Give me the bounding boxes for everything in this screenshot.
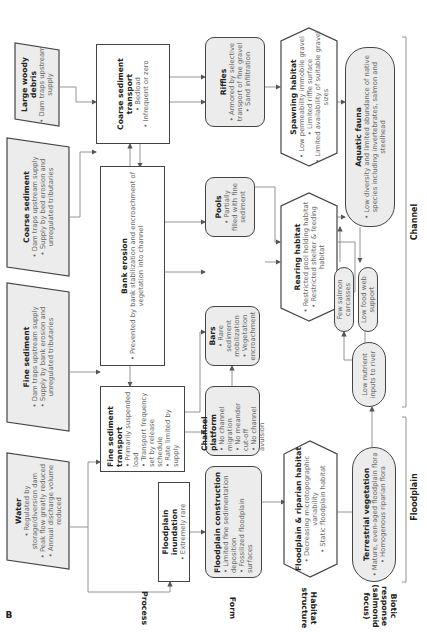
driver-fine-sediment: Fine sediment • Dam traps upstream suppl…: [6, 282, 70, 432]
habitat-floodplain-riparian: Floodplain & riparian habitat • Decreasi…: [283, 440, 338, 578]
form-bars: Bars • Rare sediment mobilization • Vege…: [205, 306, 260, 366]
driver-lwd-bullet: • Dam traps upstream supply: [38, 46, 54, 123]
process-bank-erosion-title: Bank erosion: [120, 238, 129, 294]
row-label-process: Process: [140, 588, 149, 628]
form-bullet: • Limited fine sedimentation deposition: [222, 471, 238, 573]
driver-large-woody-debris: Large woody debris • Dam traps upstream …: [14, 42, 60, 127]
driver-coarse-sediment-title: Coarse sediment: [22, 171, 31, 243]
row-label-habitat: Habitat structure: [300, 586, 318, 630]
process-bullet: • Bedload: [134, 77, 142, 111]
bracket-channel-label: Channel: [410, 192, 419, 252]
form-riffles: Riffles • Armored by selective transport…: [205, 37, 265, 127]
form-channel-platform: Channel platform • No channel migration …: [205, 386, 260, 456]
habitat-bullet: • Limited riffle surface: [306, 59, 314, 135]
driver-coarse-sediment-bullet: • Dam traps upstream supply: [31, 157, 39, 258]
process-bullet: • Primarily suspended load: [124, 391, 140, 467]
form-channel-platform-title: Channel platform: [200, 391, 218, 451]
panel-letter: B: [6, 610, 13, 620]
form-bullet: • Rare sediment mobilization: [217, 311, 241, 361]
form-bullet: • Sand infiltration: [244, 52, 252, 112]
habitat-bullet: • Low permeability immobile gravel: [298, 36, 306, 158]
form-bullet: • No channel migration: [218, 391, 234, 451]
habitat-bullet: • Restricted shelter & feeding habitat: [310, 196, 326, 318]
form-bullet: • Partially filled with fine sediment: [223, 182, 247, 232]
process-fine-sediment-transport: Fine sediment transport • Primarily susp…: [100, 386, 185, 472]
form-pools: Pools • Partially filled with fine sedim…: [205, 177, 255, 237]
form-bullet: • No meander cut-off: [234, 391, 250, 451]
form-bullet: • Fossilized floodplain surfaces: [238, 471, 254, 573]
row-label-form: Form: [228, 588, 237, 628]
habitat-floodplain-riparian-title: Floodplain & riparian habitat: [294, 447, 303, 571]
driver-water-bullet: • Annual discharge volume reduced: [47, 456, 63, 566]
biotic-few-salmon-carcasses-text: Few salmon carcasses: [336, 272, 352, 327]
biotic-aquatic-fauna-title: Aquatic fauna: [354, 107, 363, 167]
process-floodplain-inundation: Floodplain inundation • Extremely rare: [158, 482, 190, 582]
driver-water-bullet: • Peak flow greatly reduced: [39, 464, 47, 558]
process-bullet: • Rate limited by supply: [164, 391, 180, 467]
biotic-low-nutrient-inputs-text: Low nutrient inputs to river: [361, 347, 377, 402]
form-floodplain-construction-title: Floodplain construction: [213, 472, 222, 573]
habitat-bullet: • Restricted pool holding habitat: [302, 202, 310, 313]
habitat-rearing-title: Rearing habitat: [293, 224, 302, 291]
process-bullet: • Transport frequency set by release sch…: [140, 391, 164, 467]
biotic-terrestrial-vegetation-title: Terrestrial vegetation: [362, 468, 371, 561]
form-floodplain-construction: Floodplain construction • Limited fine s…: [205, 466, 262, 578]
habitat-rearing: Rearing habitat • Restricted pool holdin…: [280, 192, 338, 322]
biotic-bullet: • Low diversity and limited abundance of…: [363, 52, 387, 222]
habitat-bullet: • Limited availability of suitable grave…: [314, 31, 330, 163]
process-bank-erosion: Bank erosion • Prevented by bank stabili…: [100, 166, 165, 366]
process-bullet: • Extremely rare: [179, 504, 187, 561]
driver-water-bullet: • Regulated by storage/diversion dam: [23, 456, 39, 566]
driver-fine-sediment-bullet: • Supply by bank erosion and unregulated…: [39, 286, 55, 428]
biotic-aquatic-fauna: Aquatic fauna • Low diversity and limite…: [345, 47, 395, 227]
biotic-low-food-web-support-text: Low food web support: [360, 272, 376, 327]
driver-coarse-sediment: Coarse sediment • Dam traps upstream sup…: [6, 137, 70, 277]
form-bullet: • Armored by selective transport of fine…: [228, 42, 244, 122]
form-bullet: • No channel avulsion: [250, 391, 266, 451]
driver-coarse-sediment-bullet: • Supply by bed erosion and unregulated …: [39, 141, 55, 273]
process-coarse-sediment-transport-title: Coarse sediment transport: [116, 49, 134, 139]
driver-water-title: Water: [14, 498, 23, 524]
biotic-low-nutrient-inputs: Low nutrient inputs to river: [352, 342, 386, 407]
process-bullet: • Prevented by bank stabilization and en…: [129, 171, 145, 361]
biotic-bullet: • Mature, even-aged floodplain flora: [371, 453, 379, 577]
driver-water: Water • Regulated by storage/diversion d…: [6, 452, 70, 570]
form-pools-title: Pools: [214, 195, 223, 218]
process-fine-sediment-transport-title: Fine sediment transport: [106, 391, 124, 467]
habitat-bullet: • Decreasing microtopographic variabilit…: [303, 444, 319, 574]
driver-lwd-title: Large woody debris: [20, 46, 38, 123]
driver-fine-sediment-title: Fine sediment: [22, 327, 31, 388]
row-label-biotic: Biotic response (salmonid focus): [362, 578, 398, 632]
form-riffles-title: Riffles: [219, 69, 228, 96]
biotic-low-food-web-support: Low food web support: [358, 267, 378, 332]
process-coarse-sediment-transport: Coarse sediment transport • Bedload • In…: [96, 44, 170, 144]
driver-fine-sediment-bullet: • Dam traps upstream supply: [31, 307, 39, 408]
habitat-spawning-title: Spawning habitat: [289, 59, 298, 135]
form-bullet: • Vegetation encroachment: [241, 311, 257, 361]
habitat-bullet: • Static floodplain habitat: [319, 465, 327, 553]
form-bars-title: Bars: [208, 326, 217, 345]
habitat-spawning: Spawning habitat • Low permeability immo…: [280, 27, 338, 167]
biotic-bullet: • Homogenous riparian flora: [379, 466, 387, 563]
process-bullet: • Infrequent or zero: [142, 60, 150, 127]
biotic-few-salmon-carcasses: Few salmon carcasses: [334, 267, 354, 332]
bracket-floodplain-label: Floodplain: [410, 467, 419, 527]
process-floodplain-inundation-title: Floodplain inundation: [161, 487, 179, 577]
biotic-terrestrial-vegetation: Terrestrial vegetation • Mature, even-ag…: [352, 447, 396, 582]
